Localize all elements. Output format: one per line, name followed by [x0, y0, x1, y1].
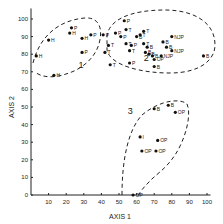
scatter-chart: 1020304050607080901000102030405060708090… [0, 0, 223, 224]
data-point: P [102, 32, 110, 38]
point-label: P [93, 32, 97, 38]
x-tick-label: 60 [133, 199, 140, 205]
data-point: OP [156, 137, 168, 143]
point-label: OP [160, 137, 168, 143]
data-point: OP [140, 148, 152, 154]
x-tick-label: 100 [202, 199, 213, 205]
x-tick-label: 40 [98, 199, 105, 205]
y-tick-label: 0 [25, 192, 29, 198]
point-label: OP [136, 192, 144, 198]
x-axis-label: AXIS 1 [109, 213, 131, 220]
point-label: H [72, 30, 76, 36]
point-label: P [106, 32, 110, 38]
data-point: I [139, 134, 144, 140]
point-label: T [132, 48, 135, 54]
point-label: T [113, 62, 116, 68]
y-tick-label: 50 [21, 104, 28, 110]
point-label: P [127, 18, 131, 24]
point-label: T [107, 49, 110, 55]
y-tick-label: 60 [21, 86, 28, 92]
data-point: T [107, 42, 114, 48]
point-label: B [157, 106, 161, 112]
x-tick-label: 90 [186, 199, 193, 205]
point-label: P [74, 25, 78, 31]
point-label: P [85, 49, 89, 55]
data-point: P [70, 25, 78, 31]
point-label: OP [144, 148, 152, 154]
point-label: P [123, 34, 127, 40]
point-label: P [134, 42, 138, 48]
x-tick-label: 50 [116, 199, 123, 205]
y-tick-label: 80 [21, 51, 28, 57]
point-label: T [111, 42, 114, 48]
point-label: NJP [174, 34, 184, 40]
point-label: B [171, 102, 175, 108]
y-tick-label: 30 [21, 139, 28, 145]
point-label: B [157, 64, 161, 70]
x-tick-label: 30 [80, 199, 87, 205]
point-label: H [85, 35, 89, 41]
data-points: HHHHPHPPPTTTPPPTTTPPBTTTBBBBOPBNJPBBNJPN… [35, 18, 210, 198]
data-point: OP [131, 192, 143, 198]
cluster-number: 3 [128, 106, 133, 116]
y-tick-label: 90 [21, 34, 28, 40]
y-tick-label: 20 [21, 157, 28, 163]
x-tick-label: 10 [45, 199, 52, 205]
y-axis-label: AXIS 2 [8, 96, 15, 118]
cluster-number: 2 [144, 53, 149, 63]
data-point: H [52, 72, 60, 78]
data-point: B [153, 64, 161, 70]
cluster-1-outline [33, 18, 101, 77]
data-point: NJP [170, 34, 184, 40]
point-label: OP [178, 109, 186, 115]
point-label: NJP [174, 48, 184, 54]
data-point: P [89, 32, 97, 38]
point-label: H [39, 53, 43, 59]
cluster-number: 1 [79, 60, 84, 70]
point-label: T [146, 28, 149, 34]
point-label: H [56, 72, 60, 78]
data-point: H [80, 35, 88, 41]
data-point: B [202, 53, 210, 59]
data-point: T [109, 62, 116, 68]
point-label: T [129, 27, 132, 33]
y-tick-label: 40 [21, 122, 28, 128]
point-label: P [132, 60, 136, 66]
data-point: B [167, 102, 175, 108]
point-label: NJP [164, 53, 174, 59]
y-tick-label: 100 [18, 16, 29, 22]
data-point: P [80, 49, 88, 55]
point-label: H [51, 37, 55, 43]
data-point: T [103, 49, 110, 55]
data-point: H [47, 37, 55, 43]
data-point: P [123, 18, 131, 24]
data-point: P [128, 60, 136, 66]
point-label: OP [158, 148, 166, 154]
data-point: OP [174, 109, 186, 115]
data-point: T [128, 48, 135, 54]
data-point: T [142, 41, 149, 47]
point-label: I [143, 134, 144, 140]
x-tick-label: 80 [168, 199, 175, 205]
data-point: T [124, 27, 131, 33]
cluster-2-outline [107, 10, 215, 73]
y-tick-label: 70 [21, 69, 28, 75]
data-point: OP [154, 148, 166, 154]
x-tick-label: 20 [63, 199, 70, 205]
x-tick-label: 70 [151, 199, 158, 205]
y-tick-label: 10 [21, 174, 28, 180]
data-point: H [68, 30, 76, 36]
point-label: B [206, 53, 210, 59]
